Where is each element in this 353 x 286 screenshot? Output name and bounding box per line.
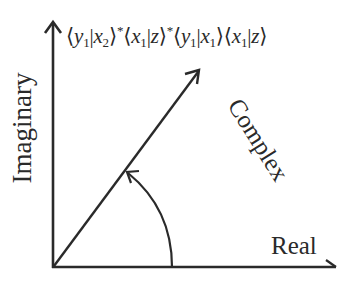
- imaginary-axis-label: Imaginary: [7, 73, 38, 184]
- formula-term-1: ⟨y1|x2⟩*: [66, 24, 123, 48]
- formula-label: ⟨y1|x2⟩*⟨x1|z⟩*⟨y1|x1⟩⟨x1|z⟩: [66, 24, 267, 49]
- formula-term-3: ⟨y1|x1⟩: [173, 24, 224, 48]
- formula-term-2: ⟨x1|z⟩*: [123, 24, 173, 48]
- formula-term-4: ⟨x1|z⟩: [224, 24, 267, 48]
- real-axis: [52, 260, 336, 267]
- complex-vector: [54, 70, 199, 266]
- angle-arc: [127, 171, 172, 267]
- real-axis-label: Real: [271, 232, 317, 260]
- imaginary-axis: [45, 22, 61, 268]
